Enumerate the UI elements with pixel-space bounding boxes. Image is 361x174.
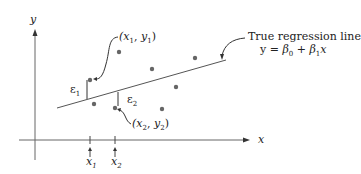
callout-regression-line <box>222 38 245 56</box>
callout-point1 <box>96 37 118 79</box>
y-axis-label: y <box>30 14 36 25</box>
y-axis-arrow-icon <box>33 29 38 36</box>
tick2-label: x2 <box>111 156 122 170</box>
callout-point2 <box>120 110 131 124</box>
error1-label: ε1 <box>70 84 80 98</box>
error2-label: ε2 <box>127 94 137 108</box>
regression-line <box>57 60 226 108</box>
callout-arrow-icon <box>220 54 224 60</box>
callout-arrow-icon <box>117 108 121 112</box>
point1-label: (x1, y1) <box>119 31 156 45</box>
x-axis-label: x <box>258 134 264 145</box>
tick-arrow-icon <box>113 147 117 151</box>
callout-arrow-icon <box>93 77 97 81</box>
tick-arrow-icon <box>88 147 92 151</box>
regression-equation: y = β0 + β1x <box>260 44 327 58</box>
point2-label: (x2, y2) <box>132 118 169 132</box>
regression-line-title: True regression line <box>248 31 361 42</box>
x-axis-arrow-icon <box>243 138 250 143</box>
tick1-label: x1 <box>86 156 97 170</box>
data-points <box>88 50 197 111</box>
